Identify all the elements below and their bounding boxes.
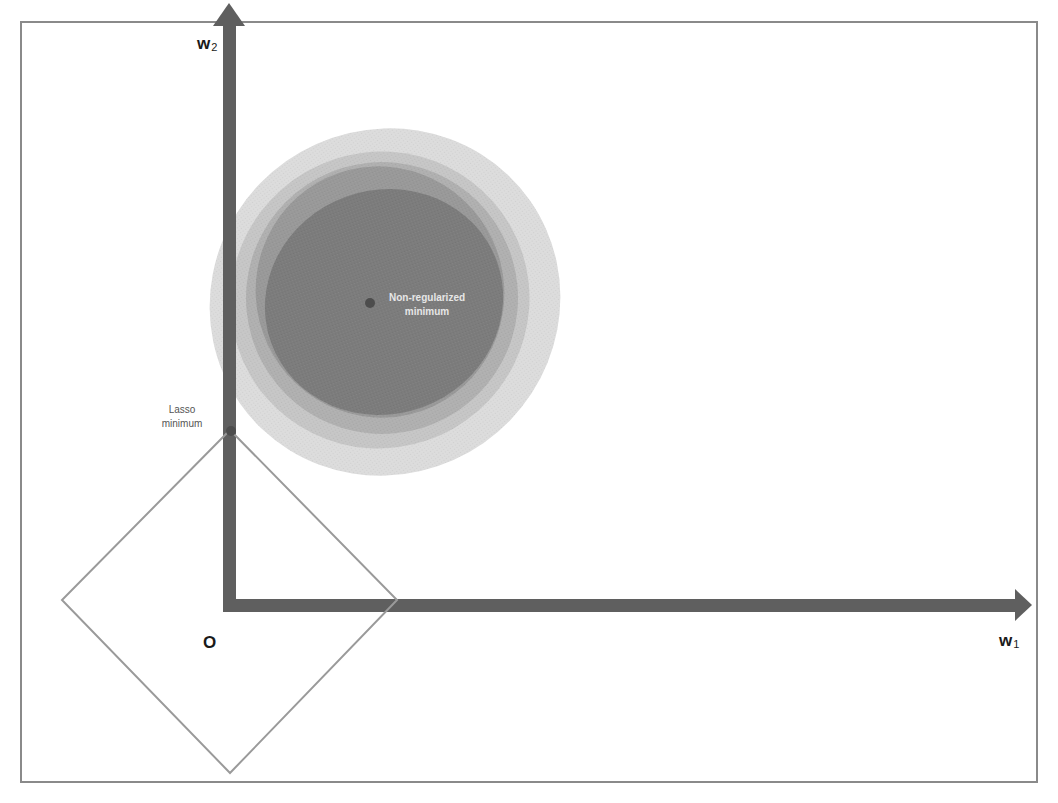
lasso-minimum-label-line2: minimum	[150, 417, 214, 431]
x-axis-label-main: w	[999, 631, 1012, 650]
lasso-minimum-point	[226, 426, 236, 436]
y-axis-label-subscript: 2	[211, 41, 217, 53]
x-axis-shaft	[223, 599, 1018, 612]
origin-label: O	[203, 633, 216, 653]
non-regularized-minimum-label-line1: Non-regularized	[381, 291, 473, 305]
x-axis-arrowhead	[1015, 589, 1032, 621]
y-axis-label: w2	[197, 34, 217, 54]
lasso-minimum-label: Lasso minimum	[150, 403, 214, 431]
lasso-diagram	[0, 0, 1058, 803]
non-regularized-minimum-point	[365, 298, 375, 308]
x-axis	[223, 589, 1032, 621]
non-regularized-minimum-label: Non-regularized minimum	[381, 291, 473, 319]
lasso-minimum-label-line1: Lasso	[150, 403, 214, 417]
x-axis-label: w1	[999, 631, 1019, 651]
non-regularized-minimum-label-line2: minimum	[381, 305, 473, 319]
x-axis-label-subscript: 1	[1013, 638, 1019, 650]
y-axis-shaft	[223, 22, 236, 606]
y-axis-arrowhead	[213, 3, 245, 26]
y-axis-label-main: w	[197, 34, 210, 53]
